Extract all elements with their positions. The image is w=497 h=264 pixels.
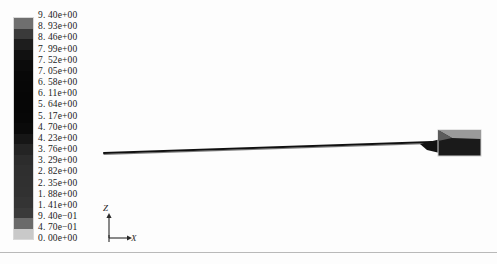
end-block	[438, 130, 481, 156]
contour-colorbar[interactable]	[13, 17, 34, 240]
colorbar-tick-label: 4. 70e−01	[38, 223, 100, 233]
colorbar-band	[14, 92, 33, 103]
colorbar-band	[14, 18, 33, 29]
colorbar-band	[14, 197, 33, 208]
visualization-screenshot: 9. 40e+008. 93e+008. 46e+007. 99e+007. 5…	[0, 0, 497, 264]
colorbar-tick-label: 1. 41e+00	[38, 201, 100, 211]
colorbar-tick-label: 7. 05e+00	[38, 67, 100, 77]
x-axis-arrow	[109, 236, 132, 241]
beam-shaft	[104, 142, 432, 154]
colorbar-band	[14, 155, 33, 166]
colorbar-band	[14, 39, 33, 50]
colorbar-band	[14, 134, 33, 145]
colorbar-tick-label: 9. 40e−01	[38, 212, 100, 222]
colorbar-band	[14, 50, 33, 61]
colorbar-band	[14, 123, 33, 134]
colorbar-tick-label: 0. 00e+00	[38, 234, 100, 244]
colorbar-tick-label: 2. 35e+00	[38, 179, 100, 189]
orientation-triad: Z X	[98, 204, 142, 250]
colorbar-band	[14, 81, 33, 92]
colorbar-tick-label: 3. 76e+00	[38, 145, 100, 155]
colorbar-tick-label: 8. 46e+00	[38, 33, 100, 43]
z-axis-arrow	[106, 213, 111, 238]
colorbar-tick-label: 4. 23e+00	[38, 134, 100, 144]
colorbar-band	[14, 187, 33, 198]
colorbar-band	[14, 218, 33, 229]
colorbar-tick-labels: 9. 40e+008. 93e+008. 46e+007. 99e+007. 5…	[38, 11, 100, 244]
colorbar-tick-label: 1. 88e+00	[38, 190, 100, 200]
colorbar-tick-label: 9. 40e+00	[38, 11, 100, 21]
beam-geometry	[100, 8, 492, 248]
colorbar-tick-label: 6. 58e+00	[38, 78, 100, 88]
colorbar-band	[14, 208, 33, 219]
model-viewport[interactable]	[100, 8, 492, 248]
z-axis-label: Z	[103, 204, 108, 213]
colorbar-tick-label: 7. 52e+00	[38, 56, 100, 66]
frame-divider	[0, 252, 497, 253]
colorbar-band	[14, 176, 33, 187]
colorbar-band	[14, 71, 33, 82]
colorbar-band	[14, 29, 33, 40]
colorbar-tick-label: 6. 11e+00	[38, 89, 100, 99]
colorbar-tick-label: 8. 93e+00	[38, 22, 100, 32]
colorbar-tick-label: 5. 64e+00	[38, 100, 100, 110]
colorbar-tick-label: 2. 82e+00	[38, 167, 100, 177]
colorbar-tick-label: 5. 17e+00	[38, 112, 100, 122]
colorbar-tick-label: 3. 29e+00	[38, 156, 100, 166]
colorbar-band	[14, 60, 33, 71]
colorbar-band	[14, 102, 33, 113]
colorbar-tick-label: 7. 99e+00	[38, 45, 100, 55]
colorbar-band	[14, 113, 33, 124]
colorbar-band	[14, 165, 33, 176]
colorbar-band	[14, 144, 33, 155]
x-axis-label: X	[131, 234, 137, 243]
colorbar-tick-label: 4. 70e+00	[38, 123, 100, 133]
colorbar-band	[14, 229, 33, 240]
